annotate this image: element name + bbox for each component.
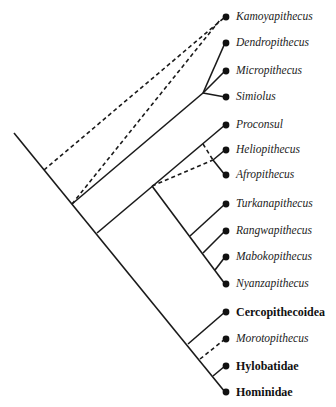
- cercopithecoidea-node-dot-icon: [223, 309, 230, 316]
- afropithecus-branch-edge: [213, 160, 225, 175]
- dendropithecus-node-dot-icon: [223, 40, 230, 47]
- dendropithecus-clade-stem-edge: [72, 93, 203, 204]
- taxon-label-mabokopithecus: Mabokopithecus: [236, 251, 312, 263]
- kamoyapithecus-node-dot-icon: [223, 14, 230, 21]
- micropithecus-node-dot-icon: [223, 68, 230, 75]
- taxon-label-hominidae: Hominidae: [236, 386, 293, 398]
- simiolus-node-dot-icon: [223, 94, 230, 101]
- taxon-label-proconsul: Proconsul: [236, 119, 283, 131]
- nyanzapithecine-spine-edge: [152, 186, 225, 284]
- taxon-label-afropithecus: Afropithecus: [236, 169, 294, 181]
- dendropithecus-branch-edge: [203, 43, 225, 93]
- cercopithecoidea-branch-edge: [188, 312, 225, 344]
- nyanzapithecus-node-dot-icon: [223, 281, 230, 288]
- hominidae-node-dot-icon: [223, 389, 230, 396]
- simiolus-branch-edge: [203, 93, 225, 97]
- tree-edges: [14, 17, 225, 392]
- proconsul-clade-stem-edge: [97, 125, 225, 233]
- morotopithecus-node-dot-icon: [223, 336, 230, 343]
- afropithecus-node-dot-icon: [223, 172, 230, 179]
- proconsul-node-dot-icon: [223, 122, 230, 129]
- taxon-label-hylobatidae: Hylobatidae: [236, 360, 299, 372]
- taxon-label-simiolus: Simiolus: [236, 91, 276, 103]
- taxon-label-heliopithecus: Heliopithecus: [236, 144, 300, 156]
- turkanapithecus-node-dot-icon: [223, 201, 230, 208]
- taxon-label-dendropithecus: Dendropithecus: [236, 37, 309, 49]
- taxon-label-turkanapithecus: Turkanapithecus: [236, 198, 313, 210]
- taxon-label-rangwapithecus: Rangwapithecus: [236, 225, 312, 237]
- taxon-label-cercopithecoidea: Cercopithecoidea: [236, 306, 325, 318]
- heliopithecus-afropithecus-stem-edge: [152, 160, 213, 186]
- rangwapithecus-node-dot-icon: [223, 228, 230, 235]
- main-spine-edge: [14, 133, 225, 392]
- heliopithecus-node-dot-icon: [223, 147, 230, 154]
- taxon-label-micropithecus: Micropithecus: [236, 65, 302, 77]
- micropithecus-branch-edge: [203, 71, 225, 93]
- taxon-label-nyanzapithecus: Nyanzapithecus: [236, 278, 309, 290]
- heliopithecus-afropithecus-link-edge: [203, 144, 213, 160]
- kamoyapithecus-branch-b-edge: [72, 20, 220, 204]
- taxon-label-kamoyapithecus: Kamoyapithecus: [236, 11, 313, 23]
- leaf-dots: [223, 14, 230, 396]
- mabokopithecus-node-dot-icon: [223, 254, 230, 261]
- morotopithecus-branch-edge: [200, 339, 225, 359]
- turkanapithecus-branch-edge: [190, 204, 225, 236]
- hylobatidae-node-dot-icon: [223, 363, 230, 370]
- taxon-label-morotopithecus: Morotopithecus: [236, 333, 308, 345]
- rangwapithecus-branch-edge: [203, 231, 225, 253]
